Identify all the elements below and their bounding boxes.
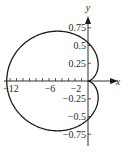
- labels: −12−6−20.750.50.25−0.25−0.5−0.75xy: [3, 2, 121, 140]
- y-tick-label: −0.75: [63, 129, 86, 140]
- y-tick-label: −0.5: [68, 111, 86, 122]
- y-tick-label: 0.75: [69, 22, 87, 33]
- x-tick-label: −12: [3, 83, 19, 94]
- y-tick-label: −0.25: [63, 93, 86, 104]
- chart-plot: −12−6−20.750.50.25−0.25−0.5−0.75xy: [0, 0, 124, 153]
- axes: [4, 16, 118, 146]
- x-axis-label: x: [115, 76, 121, 87]
- x-tick-label: −6: [45, 83, 56, 94]
- y-tick-label: 0.25: [69, 58, 87, 69]
- y-axis-label: y: [85, 2, 91, 13]
- y-tick-label: 0.5: [74, 40, 87, 51]
